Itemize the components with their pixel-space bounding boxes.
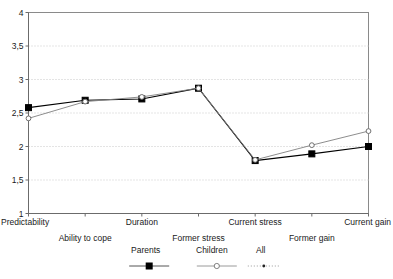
legend-marker-open-circle — [214, 263, 219, 268]
chart-canvas: 11,522,533,54PredictabilityAbility to co… — [0, 0, 393, 279]
x-axis-label-predictability: Predictability — [1, 217, 50, 227]
data-point-parents-0 — [26, 105, 32, 111]
data-point-parents-5 — [309, 151, 315, 157]
x-axis-label-current-stress: Current stress — [228, 217, 281, 227]
y-axis-tick-label: 1,5 — [12, 175, 24, 185]
x-axis-label-ability-to-cope: Ability to cope — [59, 233, 112, 243]
x-axis-label-former-gain: Former gain — [289, 233, 335, 243]
y-axis-tick-label: 3 — [19, 75, 24, 85]
y-axis-tick-label: 2,5 — [12, 108, 24, 118]
line-chart: 11,522,533,54PredictabilityAbility to co… — [0, 0, 393, 279]
x-axis-label-duration: Duration — [126, 217, 158, 227]
data-point-children-4 — [253, 158, 258, 163]
legend-label-children: Children — [196, 245, 228, 255]
x-axis-labels: PredictabilityAbility to copeDurationFor… — [1, 217, 391, 243]
x-axis-label-current-gain: Current gain — [344, 217, 391, 227]
legend-label-all: All — [256, 245, 266, 255]
data-point-children-0 — [26, 116, 31, 121]
data-point-parents-6 — [366, 144, 372, 150]
legend: ParentsChildrenAll — [129, 245, 280, 270]
legend-label-parents: Parents — [131, 245, 160, 255]
y-axis-tick-label: 3,5 — [12, 41, 24, 51]
x-axis — [29, 214, 369, 217]
data-point-children-5 — [309, 143, 314, 148]
data-point-children-6 — [366, 129, 371, 134]
legend-marker-filled-square — [146, 263, 153, 270]
data-point-children-1 — [83, 99, 88, 104]
y-axis-tick-label: 2 — [19, 142, 24, 152]
y-axis: 11,522,533,54 — [12, 8, 29, 219]
legend-marker-dot — [262, 265, 265, 268]
x-axis-label-former-stress: Former stress — [172, 233, 224, 243]
data-point-children-3 — [196, 86, 201, 91]
data-point-children-2 — [139, 95, 144, 100]
y-axis-tick-label: 4 — [19, 8, 24, 18]
